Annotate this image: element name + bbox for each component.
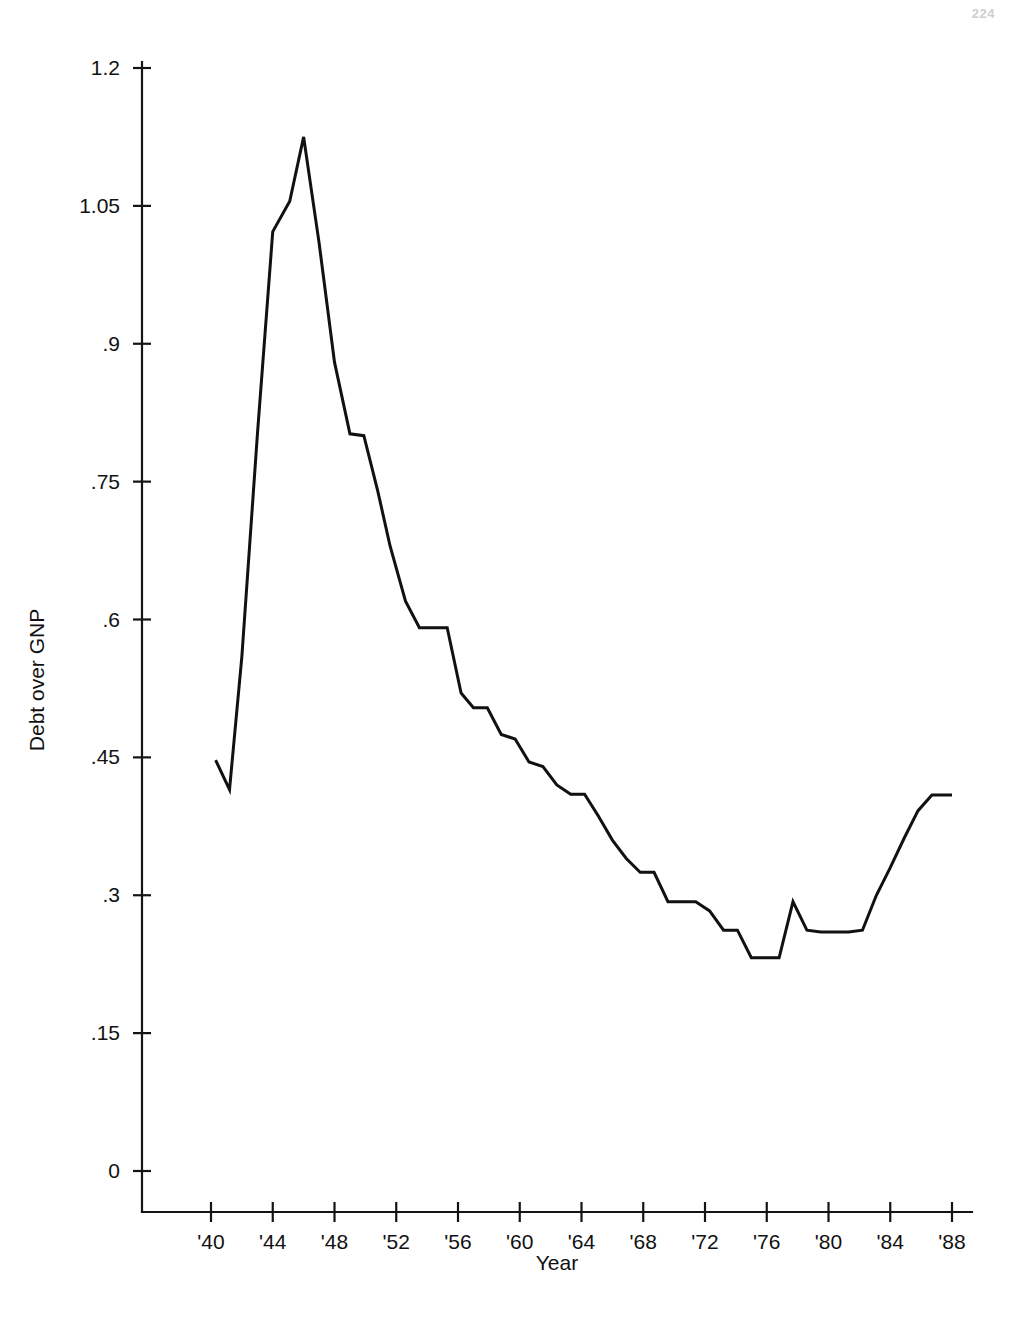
y-tick-label: .45 bbox=[91, 745, 120, 768]
x-tick-label: '76 bbox=[753, 1230, 780, 1253]
y-axis-tick-labels: 0.15.3.45.6.75.91.051.2 bbox=[79, 56, 120, 1182]
x-tick-label: '84 bbox=[877, 1230, 905, 1253]
x-tick-label: '44 bbox=[259, 1230, 287, 1253]
x-tick-label: '40 bbox=[197, 1230, 224, 1253]
data-series-debt-over-gnp bbox=[216, 137, 952, 958]
page-number: 224 bbox=[972, 6, 995, 21]
x-tick-label: '88 bbox=[938, 1230, 965, 1253]
chart-figure: 224 0.15.3.45.6.75.91.051.2 '40'44'48'52… bbox=[0, 0, 1019, 1323]
x-tick-label: '56 bbox=[444, 1230, 471, 1253]
x-tick-label: '52 bbox=[383, 1230, 410, 1253]
debt-over-gnp-line-chart: 0.15.3.45.6.75.91.051.2 '40'44'48'52'56'… bbox=[0, 0, 1019, 1323]
y-tick-label: 0 bbox=[108, 1159, 120, 1182]
x-tick-label: '60 bbox=[506, 1230, 533, 1253]
y-tick-label: .6 bbox=[102, 608, 120, 631]
x-tick-label: '72 bbox=[691, 1230, 718, 1253]
x-tick-label: '48 bbox=[321, 1230, 348, 1253]
x-tick-label: '80 bbox=[815, 1230, 842, 1253]
x-axis-tick-labels: '40'44'48'52'56'60'64'68'72'76'80'84'88 bbox=[197, 1230, 965, 1253]
x-tick-label: '64 bbox=[568, 1230, 596, 1253]
y-tick-label: 1.2 bbox=[91, 56, 120, 79]
y-tick-label: 1.05 bbox=[79, 194, 120, 217]
y-tick-label: .75 bbox=[91, 470, 120, 493]
x-tick-label: '68 bbox=[630, 1230, 657, 1253]
y-axis-title: Debt over GNP bbox=[25, 609, 48, 751]
x-axis-title: Year bbox=[536, 1251, 578, 1274]
y-tick-label: .15 bbox=[91, 1021, 120, 1044]
y-tick-label: .3 bbox=[102, 883, 120, 906]
y-tick-label: .9 bbox=[102, 332, 120, 355]
